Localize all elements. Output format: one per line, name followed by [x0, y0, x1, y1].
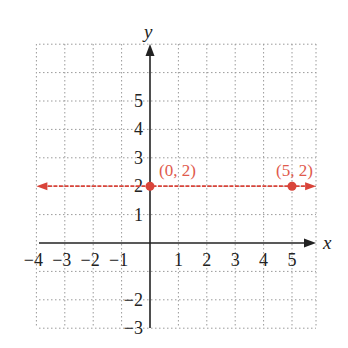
- point-label: (5, 2): [276, 161, 313, 180]
- y-axis-arrow-icon: [146, 44, 155, 56]
- x-tick-label: 1: [174, 250, 183, 270]
- x-tick-label: 5: [288, 250, 297, 270]
- x-tick-label: 4: [259, 250, 268, 270]
- y-tick-label: −3: [124, 318, 143, 338]
- x-tick-label: 3: [231, 250, 240, 270]
- x-tick-label: −4: [24, 250, 43, 270]
- x-tick-label: −1: [109, 250, 128, 270]
- y-axis-label: y: [142, 21, 153, 42]
- y-tick-label: 5: [134, 91, 143, 111]
- y-tick-label: 1: [134, 205, 143, 225]
- y-tick-label: 4: [134, 119, 143, 139]
- x-tick-label: −3: [52, 250, 71, 270]
- point-label: (0, 2): [159, 161, 196, 180]
- left-arrow-icon: [36, 182, 47, 190]
- coordinate-plane: −4−3−2−112345−3−212345 (0, 2)(5, 2) x y: [0, 0, 348, 348]
- x-axis-label: x: [322, 232, 332, 253]
- y-tick-label: 3: [134, 148, 143, 168]
- data-series: (0, 2)(5, 2): [36, 161, 316, 191]
- right-arrow-icon: [305, 182, 316, 190]
- y-tick-label: −2: [124, 290, 143, 310]
- x-tick-label: 2: [202, 250, 211, 270]
- data-point: [146, 182, 155, 191]
- x-axis-arrow-icon: [304, 239, 316, 248]
- data-point: [288, 182, 297, 191]
- x-tick-label: −2: [81, 250, 100, 270]
